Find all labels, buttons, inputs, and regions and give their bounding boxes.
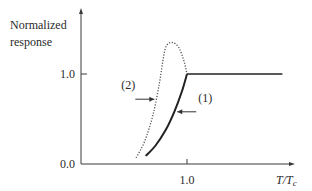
y-tick-label: 1.0 bbox=[60, 67, 75, 81]
x-tick-label: 1.0 bbox=[180, 173, 195, 187]
y-axis-arrow bbox=[79, 8, 83, 14]
series-1-curve bbox=[146, 74, 187, 156]
y-tick-label: 0.0 bbox=[60, 157, 75, 171]
x-axis-label-main: T/T bbox=[276, 173, 294, 187]
annotation-label: (2) bbox=[121, 78, 135, 92]
axes bbox=[79, 8, 295, 166]
chart: Normalized response 1.00.01.0 (1)(2) T/T… bbox=[0, 0, 312, 191]
x-axis-label-sub: c bbox=[293, 178, 297, 188]
annotation-arrowhead bbox=[149, 97, 154, 102]
x-axis-arrow bbox=[289, 162, 295, 166]
y-axis-label-line-2: response bbox=[10, 35, 52, 49]
y-axis-label-line-1: Normalized bbox=[10, 18, 67, 32]
annotation-arrowhead bbox=[177, 109, 182, 114]
annotation-label: (1) bbox=[198, 91, 212, 105]
x-axis-label: T/Tc bbox=[276, 173, 297, 188]
